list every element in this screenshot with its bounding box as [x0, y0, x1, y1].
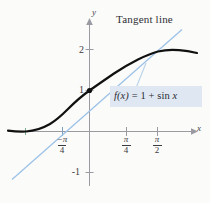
x-tick-neg-pi-4-denominator: 4: [50, 146, 74, 155]
x-tick-neg-pi-4-numerator: π: [63, 134, 68, 144]
formula-leader-line: [136, 63, 146, 88]
formula-expression: = 1 + sin: [129, 90, 173, 101]
x-tick-pi-4-numerator: π: [117, 135, 135, 144]
formula-variable: x: [173, 90, 178, 101]
formula-function-name: f(x): [114, 90, 129, 101]
y-tick-label-1: 1: [68, 84, 84, 95]
x-axis-label: x: [197, 124, 201, 133]
x-tick-pi-2-numerator: π: [148, 135, 166, 144]
formula-callout-text: f(x) = 1 + sin x: [114, 90, 177, 101]
x-tick-label-neg-pi-4: −π 4: [50, 135, 74, 155]
tangency-point-marker: [87, 88, 92, 93]
y-tick-label-neg-1: -1: [64, 166, 80, 177]
figure-canvas: Tangent line y x 2 1 -1 −π 4 π 4 π 2 f(x…: [0, 0, 210, 203]
x-tick-pi-4-denominator: 4: [117, 146, 135, 155]
x-tick-label-pi-4: π 4: [117, 135, 135, 155]
y-axis-label: y: [92, 8, 96, 17]
x-tick-pi-2-denominator: 2: [148, 146, 166, 155]
y-tick-label-2: 2: [68, 44, 84, 55]
x-tick-label-pi-2: π 2: [148, 135, 166, 155]
tangent-line-label: Tangent line: [116, 14, 173, 25]
y-axis-arrow-icon: [86, 18, 93, 25]
